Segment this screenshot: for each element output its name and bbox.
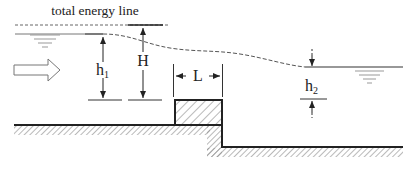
h2-label: h2 bbox=[305, 77, 318, 96]
weir-diagram: total energy line bbox=[0, 0, 415, 173]
upstream-water-level-icon bbox=[30, 35, 60, 47]
L-label: L bbox=[193, 67, 203, 84]
channel-bed bbox=[14, 100, 403, 157]
L-dimension: L bbox=[174, 64, 223, 97]
H-dimension: H bbox=[128, 25, 163, 100]
downstream-water-level-icon bbox=[355, 71, 384, 83]
h1-dimension: h1 bbox=[88, 37, 122, 100]
h1-label: h1 bbox=[96, 61, 109, 80]
h2-dimension: h2 bbox=[300, 49, 327, 118]
H-label: H bbox=[137, 52, 149, 69]
weir-block bbox=[175, 100, 222, 125]
water-surface bbox=[15, 34, 403, 67]
energy-line-label: total energy line bbox=[51, 3, 138, 18]
flow-direction-arrow-icon bbox=[14, 59, 60, 81]
